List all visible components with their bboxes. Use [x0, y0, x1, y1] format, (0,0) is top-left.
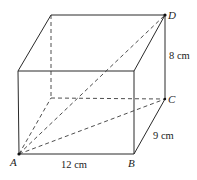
dimension-height-label: 8 cm	[169, 50, 190, 61]
vertex-label-B: B	[128, 157, 135, 169]
vertex-label-D: D	[167, 9, 176, 21]
edge-top-left-depth	[18, 15, 51, 71]
vertex-label-C: C	[168, 93, 176, 105]
dimension-length-label: 12 cm	[61, 159, 87, 170]
edge-front-left	[18, 71, 19, 154]
vertex-C-dot	[164, 98, 166, 100]
cuboid-diagram: A B C D 12 cm 9 cm 8 cm	[0, 0, 197, 180]
diagonal-AD	[19, 15, 165, 154]
vertex-label-A: A	[9, 156, 17, 168]
dimension-width-label: 9 cm	[153, 130, 174, 141]
edge-top-right-depth	[134, 15, 165, 71]
hidden-edge-bottom-left-depth	[19, 98, 51, 154]
hidden-edge-back-bottom	[51, 98, 165, 99]
edge-BC	[134, 99, 165, 154]
vertex-D-dot	[163, 13, 166, 16]
vertex-A-dot	[17, 152, 20, 155]
diagonal-AC	[19, 99, 165, 154]
